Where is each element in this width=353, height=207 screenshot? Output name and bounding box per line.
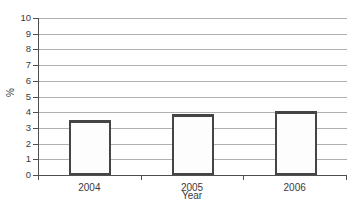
gridline-7 [39, 65, 347, 66]
y-tick-mark-2 [33, 144, 38, 145]
y-tick-mark-4 [33, 112, 38, 113]
y-tick-label-6: 6 [0, 76, 31, 86]
y-tick-label-7: 7 [0, 60, 31, 70]
y-tick-mark-6 [33, 81, 38, 82]
x-tick-mark-2 [243, 175, 244, 180]
y-tick-mark-1 [33, 159, 38, 160]
y-tick-label-4: 4 [0, 107, 31, 117]
bar-2005 [172, 114, 214, 175]
plot-area [38, 18, 347, 176]
y-tick-label-2: 2 [0, 139, 31, 149]
y-tick-mark-7 [33, 65, 38, 66]
y-tick-mark-5 [33, 97, 38, 98]
y-axis-title: % [5, 88, 16, 97]
x-tick-mark-3 [346, 175, 347, 180]
gridline-5 [39, 97, 347, 98]
gridline-6 [39, 81, 347, 82]
x-tick-mark-0 [38, 175, 39, 180]
gridline-8 [39, 49, 347, 50]
gridline-10 [39, 18, 347, 19]
x-tick-mark-1 [141, 175, 142, 180]
y-tick-label-8: 8 [0, 44, 31, 54]
gridline-9 [39, 34, 347, 35]
x-axis-title: Year [38, 190, 346, 201]
y-tick-mark-3 [33, 128, 38, 129]
bar-2004 [69, 120, 111, 175]
bar-2006 [275, 111, 317, 175]
bar-chart-figure: 012345678910 200420052006 % Year [0, 0, 353, 207]
y-tick-label-1: 1 [0, 154, 31, 164]
y-tick-label-3: 3 [0, 123, 31, 133]
y-tick-mark-10 [33, 18, 38, 19]
y-tick-label-10: 10 [0, 13, 31, 23]
y-tick-mark-9 [33, 34, 38, 35]
y-tick-label-9: 9 [0, 29, 31, 39]
y-tick-label-0: 0 [0, 170, 31, 180]
y-tick-mark-8 [33, 49, 38, 50]
